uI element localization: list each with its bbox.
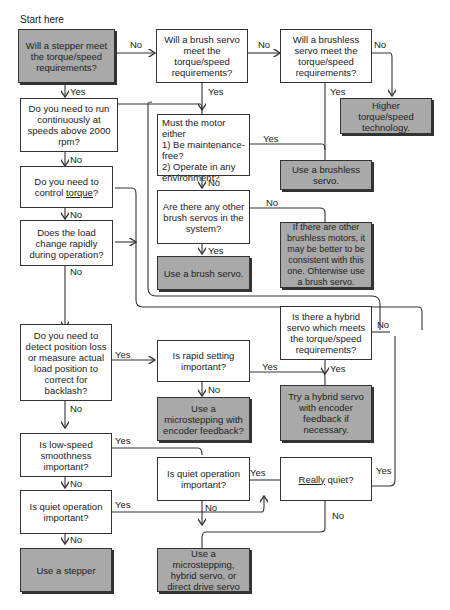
edge-label-no: No [130, 40, 142, 50]
edge-label-yes: Yes [115, 500, 131, 510]
edge-label-yes: Yes [208, 87, 224, 97]
node-stepper-meet: Will a stepper meet the torque/speed req… [18, 29, 115, 83]
edge-label-no: No [70, 155, 82, 165]
node-must-motor: Must the motor either 1) Be maintenance-… [157, 114, 250, 176]
edge-label-no: No [332, 511, 344, 521]
node-detect-position: Do you need to detect position loss or m… [20, 324, 112, 401]
must-motor-line3: 2) Operate in any environment? [162, 161, 245, 183]
control-torque-suffix: ? [93, 187, 98, 198]
edge-label-no: No [377, 320, 389, 330]
edge-label-no: No [70, 535, 82, 545]
node-use-brushless: Use a brushless servo. [280, 160, 372, 190]
edge-label-no: No [70, 210, 82, 220]
edge-label-yes: Yes [208, 246, 224, 256]
must-motor-line2: 1) Be maintenance-free? [162, 139, 245, 161]
edge-label-yes: Yes [330, 364, 346, 374]
edge-label-no: No [208, 178, 220, 188]
node-hybrid-meet: Is there a hybrid servo which meets the … [280, 306, 372, 360]
start-label: Start here [20, 14, 64, 25]
node-try-hybrid: Try a hybrid servo with encoder feedback… [280, 385, 372, 441]
really-quiet-text: quiet? [325, 474, 354, 485]
node-low-speed: Is low-speed smoothness important? [20, 433, 112, 477]
must-motor-line1: Must the motor either [162, 117, 245, 139]
node-load-change: Does the load change rapidly during oper… [20, 220, 113, 266]
node-use-brush: Use a brush servo. [157, 256, 250, 290]
node-higher-tech: Higher torque/speed technology. [340, 98, 432, 134]
edge-label-no: No [70, 404, 82, 414]
node-really-quiet: Really quiet? [280, 457, 372, 501]
edge-label-yes: Yes [115, 436, 131, 446]
node-other-brush: Are there any other brush servos in the … [157, 190, 250, 244]
node-quiet-left: Is quiet operation important? [20, 490, 112, 534]
edge-label-yes: Yes [262, 362, 278, 372]
node-control-torque: Do you need to control torque? [20, 166, 113, 208]
edge-label-no: No [374, 40, 386, 50]
node-use-micro-hybrid: Use a microstepping, hybrid servo, or di… [157, 548, 250, 592]
node-brush-meet: Will a brush servo meet the torque/speed… [156, 29, 248, 83]
edge-label-no: No [258, 40, 270, 50]
edge-label-yes: Yes [330, 87, 346, 97]
edge-label-yes: Yes [376, 466, 392, 476]
node-brushless-meet: Will a brushless servo meet the torque/s… [280, 29, 372, 83]
edge-label-no: No [70, 267, 82, 277]
edge-label-no: No [205, 503, 217, 513]
node-brushless-note: If there are other brushless motors, it … [280, 222, 372, 288]
really-underlined: Really [299, 474, 325, 485]
node-quiet-mid: Is quiet operation important? [157, 457, 250, 501]
node-rapid-setting: Is rapid setting important? [157, 340, 250, 382]
edge-label-yes: Yes [115, 350, 131, 360]
edge-label-no: No [70, 479, 82, 489]
node-use-microstep-encoder: Use a microstepping with encoder feedbac… [157, 397, 250, 441]
edge-label-no: No [208, 385, 220, 395]
node-use-stepper: Use a stepper [20, 548, 112, 592]
edge-label-no: No [266, 198, 278, 208]
node-run-2000: Do you need to run continuously at speed… [20, 98, 118, 152]
edge-label-yes: Yes [70, 87, 86, 97]
edge-label-yes: Yes [263, 134, 279, 144]
edge-label-yes: Yes [250, 468, 266, 478]
control-torque-underlined: torque [66, 187, 93, 198]
